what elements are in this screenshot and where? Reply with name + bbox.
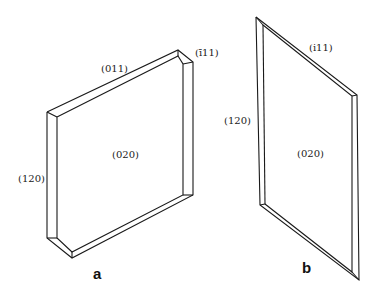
crystal-a-corner-face-label: (ī11) xyxy=(195,47,219,58)
crystal-a-top-face-label: (011) xyxy=(101,63,128,74)
crystal-b-top-face-label: (i11) xyxy=(309,42,333,53)
panel-label-b: b xyxy=(302,259,311,276)
crystal-b-front-face-label: (020) xyxy=(297,148,324,159)
crystal-a-corner-edge xyxy=(183,62,193,64)
crystal-b-side-face-label: (120) xyxy=(224,115,251,126)
crystal-b-bottom-left-edge xyxy=(260,204,265,205)
crystal-a: (011) (ī11) (120) (020) a xyxy=(18,47,219,282)
crystal-a-front-face-label: (020) xyxy=(112,149,139,160)
crystal-a-top-left-bevel xyxy=(47,112,57,117)
crystal-b-left-inner-edge xyxy=(263,25,265,204)
crystal-b: (i11) (120) (020) b xyxy=(224,17,359,280)
crystal-morphology-diagram: (011) (ī11) (120) (020) a (i11) (120) (0… xyxy=(0,0,379,292)
crystal-b-right-top-edge xyxy=(352,95,357,96)
crystal-a-side-face-label: (120) xyxy=(18,173,45,184)
panel-label-a: a xyxy=(93,265,102,282)
